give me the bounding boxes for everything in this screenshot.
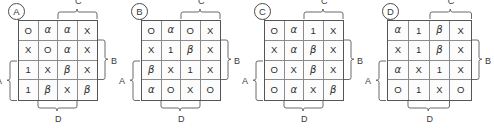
panel-badge-d: D [382, 3, 399, 20]
bracket-label-right: B [485, 56, 491, 66]
panel-d: Dα1βXX1βXαX1XO1XOCDAB [369, 0, 493, 133]
panel-c: COα1XXαβXOXβXOαXβCDAB [246, 0, 370, 133]
figure-container: AOααXXOαX1XβX1βXβCDABBOαOXX1βXβX1XαOXOCD… [0, 0, 494, 133]
bracket-label-top: C [198, 0, 205, 6]
bracket-label-right: B [111, 56, 117, 66]
bracket-right-b [98, 39, 110, 82]
bracket-bottom-d [283, 101, 325, 113]
bracket-right-b [344, 39, 356, 82]
bracket-label-top: C [321, 0, 328, 6]
bracket-label-top: C [75, 0, 82, 6]
bracket-label-left: A [119, 76, 125, 86]
bracket-bottom-d [37, 101, 79, 113]
panel-badge-c: C [254, 3, 271, 20]
panel-badge-a: A [8, 3, 25, 20]
bracket-left-a [129, 60, 141, 103]
bracket-left-a [252, 60, 264, 103]
bracket-top-c [303, 8, 345, 20]
bracket-top-c [180, 8, 222, 20]
bracket-top-c [57, 8, 99, 20]
bracket-right-b [472, 39, 484, 82]
bracket-label-top: C [448, 0, 455, 6]
panel-b: BOαOXX1βXβX1XαOXOCDAB [123, 0, 247, 133]
panel-badge-b: B [131, 3, 148, 20]
bracket-label-left: A [0, 76, 2, 86]
bracket-bottom-d [407, 101, 452, 113]
bracket-label-right: B [234, 56, 240, 66]
bracket-bottom-d [160, 101, 202, 113]
bracket-label-bottom: D [301, 114, 308, 124]
bracket-label-bottom: D [178, 114, 185, 124]
panel-a: AOααXXOαX1XβX1βXβCDAB [0, 0, 124, 133]
bracket-label-bottom: D [55, 114, 62, 124]
bracket-right-b [221, 39, 233, 82]
bracket-top-c [429, 8, 474, 20]
bracket-left-a [375, 60, 387, 103]
bracket-left-a [6, 60, 18, 103]
bracket-label-left: A [242, 76, 248, 86]
bracket-label-bottom: D [427, 114, 434, 124]
bracket-label-left: A [365, 76, 371, 86]
bracket-label-right: B [357, 56, 363, 66]
